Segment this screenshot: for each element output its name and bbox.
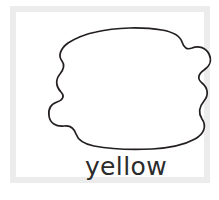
card-frame: yellow (10, 6, 210, 183)
color-word-label: yellow (32, 152, 219, 182)
blob-outline-figure[interactable] (32, 24, 219, 150)
worksheet-card: yellow (0, 0, 219, 200)
blob-outline-svg (32, 24, 219, 150)
blob-outline-path (49, 28, 211, 149)
